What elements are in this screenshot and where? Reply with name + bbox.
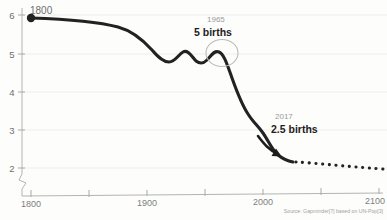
x-tick-label-1800: 1800 (21, 199, 41, 209)
annotation-start-year-label: 1800 (30, 5, 53, 16)
fertility-line-historical (31, 18, 293, 162)
chart-canvas: 6 5 4 3 2 1800 1900 2000 2100 1 (0, 0, 387, 220)
x-tick-label-2100: 2100 (365, 196, 385, 206)
annotation-today-year: 2017 (275, 112, 293, 121)
x-axis-line (22, 193, 383, 196)
y-tick-label-3: 3 (9, 125, 14, 136)
x-tick-label-2000: 2000 (253, 197, 273, 207)
annotation-today-value: 2.5 births (271, 123, 318, 135)
y-tick-label-6: 6 (9, 10, 14, 21)
y-tick-label-5: 5 (9, 49, 14, 60)
y-axis: 6 5 4 3 2 (9, 8, 26, 196)
annotation-peak-value: 5 births (194, 26, 232, 38)
y-tick-label-2: 2 (9, 163, 14, 174)
x-tick-label-1900: 1900 (137, 198, 157, 208)
fertility-rate-line-chart: 6 5 4 3 2 1800 1900 2000 2100 1 (0, 0, 387, 220)
source-credit: Source: Gapminder[7] based on UN-Pop[3] (284, 208, 384, 214)
annotation-peak-1965: 1965 5 births (194, 15, 238, 67)
annotation-today-2017: 2017 2.5 births (258, 112, 318, 157)
x-axis: 1800 1900 2000 2100 (21, 188, 385, 209)
annotation-peak-year: 1965 (207, 15, 225, 24)
axis-break-zigzag-icon (19, 174, 26, 196)
y-tick-label-4: 4 (9, 87, 14, 98)
